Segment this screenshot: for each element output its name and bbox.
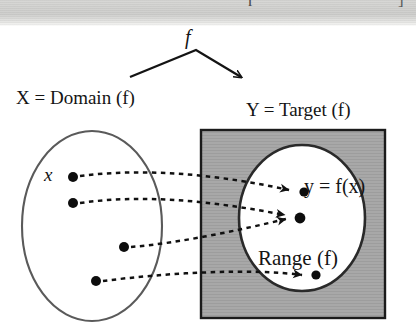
- image-value-label: y = f(x): [304, 176, 365, 196]
- map-arrow: [130, 50, 241, 77]
- figure-canvas: r ]: [0, 0, 416, 336]
- domain-point-x1: [68, 172, 78, 182]
- domain-label: X = Domain (f): [16, 88, 135, 107]
- range-point-y2: [295, 213, 306, 224]
- domain-element-label: x: [44, 165, 52, 184]
- range-point-y3: [311, 270, 320, 279]
- range-label: Range (f): [258, 248, 338, 269]
- domain-points: [68, 172, 129, 286]
- domain-point-x2: [68, 198, 78, 208]
- domain-point-x4: [91, 276, 101, 286]
- target-label: Y = Target (f): [246, 100, 351, 119]
- domain-ellipse: [22, 131, 162, 321]
- domain-point-x3: [119, 242, 129, 252]
- map-label-f: f: [185, 27, 191, 47]
- diagram-graphics: [0, 0, 416, 336]
